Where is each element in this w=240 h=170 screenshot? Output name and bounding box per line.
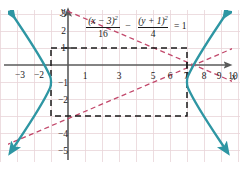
x-tick-label: −3 <box>15 70 25 80</box>
x-tick-label: 3 <box>117 71 122 81</box>
equation-num2-exponent: 2 <box>165 14 169 21</box>
x-tick-label: 9 <box>217 71 222 81</box>
y-tick-label: 2 <box>61 26 66 36</box>
y-tick-label: 1 <box>61 43 66 53</box>
equation-numerator-1: (x − 3)2 <box>88 14 118 27</box>
equation-denominator-2: 4 <box>151 29 156 39</box>
equation-equals: = 1 <box>174 21 187 31</box>
x-tick-label: 7 <box>184 71 189 81</box>
x-axis-label: x <box>231 71 237 82</box>
y-axis-label: y <box>60 5 66 16</box>
x-tick-label: 5 <box>151 71 156 81</box>
equation-denominator-1: 16 <box>98 29 108 39</box>
equation-num2-text: (y + 1) <box>138 16 164 27</box>
equation-num1-exponent: 2 <box>115 14 119 21</box>
tick-marks <box>65 48 187 69</box>
y-tick-label: −1 <box>58 78 68 88</box>
axes <box>4 12 228 160</box>
x-tick-label: 8 <box>202 71 207 81</box>
graph-canvas: −3 −2 1 3 5 6 7 8 9 10 3 2 1 −1 −2 −4 −5… <box>0 0 240 170</box>
grid-lines <box>0 10 240 162</box>
equation-numerator-2: (y + 1)2 <box>138 14 168 27</box>
y-tick-label: −2 <box>58 95 68 105</box>
x-tick-label: −2 <box>34 70 44 80</box>
x-tick-label: 6 <box>168 71 173 81</box>
y-tick-label: −4 <box>58 129 68 139</box>
equation-num1-text: (x − 3) <box>88 16 114 27</box>
y-tick-label: −5 <box>58 146 68 156</box>
x-tick-label: 1 <box>83 71 88 81</box>
hyperbola-figure: −3 −2 1 3 5 6 7 8 9 10 3 2 1 −1 −2 −4 −5… <box>0 0 240 170</box>
equation-operator: − <box>125 20 131 31</box>
